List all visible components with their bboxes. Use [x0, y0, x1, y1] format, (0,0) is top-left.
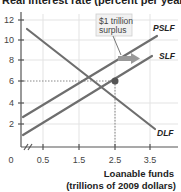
svg-text:12: 12: [4, 15, 14, 25]
svg-text:2.5: 2.5: [109, 155, 122, 165]
svg-text:6: 6: [9, 76, 14, 86]
pslf-label: PSLF: [153, 23, 176, 33]
loanable-funds-chart: Real interest rate (percent per year): [0, 0, 181, 192]
dlf-label: DLF: [157, 128, 174, 138]
svg-text:surplus: surplus: [99, 25, 126, 35]
slf-curve: [23, 56, 152, 135]
svg-text:0.5: 0.5: [37, 155, 50, 165]
svg-text:4: 4: [9, 98, 14, 108]
svg-text:(trillions of 2009 dollars): (trillions of 2009 dollars): [66, 180, 176, 191]
x-tick-labels: 0 0.5 1.5 2.5 3.5: [8, 155, 156, 165]
slf-label: SLF: [159, 51, 176, 61]
dlf-curve: [27, 29, 155, 129]
equilibrium-point: [112, 78, 119, 85]
x-axis-title: Loanable funds (trillions of 2009 dollar…: [66, 168, 176, 191]
y-tick-labels: 12 10 8 6 4 2: [4, 15, 14, 129]
svg-text:10: 10: [4, 35, 14, 45]
svg-text:1.5: 1.5: [73, 155, 86, 165]
chart-title: Real interest rate (percent per year): [2, 0, 181, 6]
svg-text:8: 8: [9, 55, 14, 65]
shift-arrow: [118, 53, 140, 64]
svg-text:0: 0: [8, 155, 13, 165]
svg-text:2: 2: [9, 119, 14, 129]
svg-text:3.5: 3.5: [144, 155, 157, 165]
svg-text:Loanable funds: Loanable funds: [104, 168, 174, 179]
